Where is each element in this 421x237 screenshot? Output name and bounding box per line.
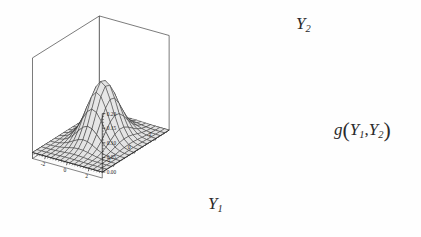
- y2-tick-label: 2: [149, 131, 152, 137]
- y1-axis-label: Y1: [208, 194, 223, 214]
- z-tick-label: 0.10: [107, 140, 117, 146]
- y1-tick-label: 2: [85, 173, 88, 179]
- z-tick-label: 0.05: [107, 154, 117, 160]
- z-axis-label: g(Y1,Y2): [334, 118, 391, 143]
- z-tick-label: 0.00: [107, 169, 117, 175]
- y2-axis-label: Y2: [296, 14, 311, 34]
- z-tick-label: 0.20: [107, 111, 117, 117]
- z-tick-label: 0.15: [107, 125, 117, 131]
- y1-tick-label: 0: [63, 167, 66, 173]
- y2-tick-label: 0: [128, 144, 131, 150]
- surface-plot-figure: -20220-20.200.150.100.050.00 Y2 Y1 g(Y1,…: [0, 0, 421, 237]
- y1-tick-label: -2: [41, 161, 46, 167]
